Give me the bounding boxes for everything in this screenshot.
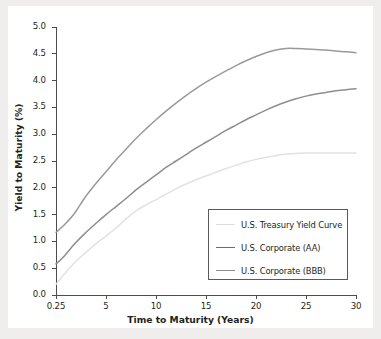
legend-item-label: U.S. Treasury Yield Curve xyxy=(241,220,342,230)
y-axis-tick-label: 4.0 xyxy=(20,75,46,85)
y-axis-tick-label: 4.5 xyxy=(20,48,46,58)
legend-swatch-icon xyxy=(216,224,235,225)
x-axis-tick-label: 10 xyxy=(136,301,176,311)
chart-plot-area xyxy=(0,0,381,339)
y-axis-tick-label: 5.0 xyxy=(20,21,46,31)
y-axis-tick-label: 2.5 xyxy=(20,155,46,165)
x-axis-tick-label: 25 xyxy=(286,301,326,311)
legend-item-label: U.S. Corporate (BBB) xyxy=(241,266,326,276)
y-axis-tick-label: 2.0 xyxy=(20,182,46,192)
x-axis-tick-label: 30 xyxy=(336,301,376,311)
y-axis-title: Yield to Maturity (%) xyxy=(13,78,24,238)
legend-item-1[interactable]: U.S. Corporate (AA) xyxy=(216,236,320,259)
legend-swatch-icon xyxy=(216,247,235,248)
legend-item-2[interactable]: U.S. Corporate (BBB) xyxy=(216,259,326,282)
y-axis-tick-label: 0.5 xyxy=(20,262,46,272)
x-axis-title: Time to Maturity (Years) xyxy=(0,314,381,325)
y-axis-tick-label: 0.0 xyxy=(20,289,46,299)
x-axis-tick-label: 5 xyxy=(86,301,126,311)
legend-item-label: U.S. Corporate (AA) xyxy=(241,243,320,253)
x-axis-tick-label: 0.25 xyxy=(36,301,76,311)
x-axis-tick-label: 15 xyxy=(186,301,226,311)
chart-legend: U.S. Treasury Yield CurveU.S. Corporate … xyxy=(208,209,348,280)
figure-container: 0.00.51.01.52.02.53.03.54.04.55.0 0.2551… xyxy=(0,0,381,339)
legend-item-0[interactable]: U.S. Treasury Yield Curve xyxy=(216,213,342,236)
y-axis-tick-label: 3.5 xyxy=(20,101,46,111)
x-axis-tick-label: 20 xyxy=(236,301,276,311)
y-axis-tick-label: 1.0 xyxy=(20,235,46,245)
series-line-2 xyxy=(56,48,356,232)
legend-swatch-icon xyxy=(216,270,235,271)
y-axis-tick-label: 1.5 xyxy=(20,209,46,219)
y-axis-tick-label: 3.0 xyxy=(20,128,46,138)
